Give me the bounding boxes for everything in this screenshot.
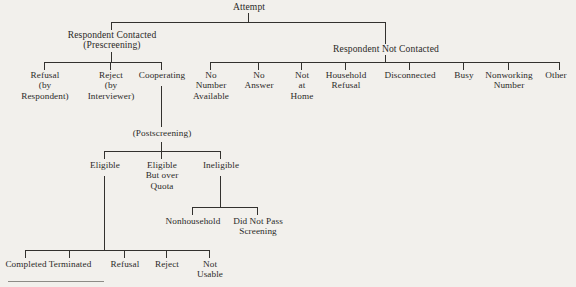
node-terminated: Terminated: [44, 259, 96, 269]
diagram-canvas: Attempt Respondent Contacted (Prescreeni…: [0, 0, 576, 287]
node-eligible-but-over-quota: Eligible But over Quota: [134, 160, 190, 191]
node-not-usable: Not Usable: [190, 259, 230, 280]
node-respondent-not-contacted: Respondent Not Contacted: [310, 44, 462, 54]
node-cooperating: Cooperating: [131, 70, 193, 80]
node-refusal: Refusal: [101, 259, 149, 269]
node-busy: Busy: [446, 70, 482, 80]
node-other: Other: [538, 70, 574, 80]
node-attempt: Attempt: [208, 2, 290, 12]
node-postscreening: (Postscreening): [124, 128, 200, 138]
node-ineligible: Ineligible: [194, 160, 248, 170]
node-eligible: Eligible: [79, 160, 131, 170]
node-did-not-pass-screening: Did Not Pass Screening: [224, 216, 292, 237]
node-respondent-contacted: Respondent Contacted (Prescreening): [41, 30, 183, 51]
node-disconnected: Disconnected: [378, 70, 442, 80]
node-household-refusal: Household Refusal: [315, 70, 377, 91]
node-reject: Reject: [145, 259, 189, 269]
node-nonhousehold: Nonhousehold: [154, 216, 232, 226]
node-no-number-available: No Number Available: [187, 70, 235, 101]
node-nonworking-number: Nonworking Number: [481, 70, 537, 91]
node-no-answer: No Answer: [236, 70, 282, 91]
node-not-at-home: Not at Home: [285, 70, 319, 101]
node-refusal-by-respondent: Refusal (by Respondent): [7, 70, 83, 101]
bottom-rule: [8, 281, 104, 282]
